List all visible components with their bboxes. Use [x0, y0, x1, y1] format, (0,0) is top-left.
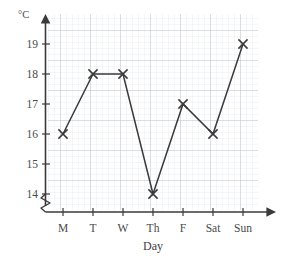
x-tick-label-sat: Sat — [206, 222, 222, 234]
plot-grid — [48, 14, 258, 210]
x-tick-label-sun: Sun — [234, 222, 252, 234]
x-tick-label-f: F — [180, 222, 186, 234]
y-axis-unit-label: °C — [18, 9, 29, 20]
chart-canvas: 19 18 17 16 15 14 °C M T W Th F Sat Sun … — [0, 0, 282, 273]
y-tick-label-16: 16 — [27, 128, 39, 140]
y-tick-label-17: 17 — [27, 98, 39, 110]
y-tick-label-14: 14 — [27, 188, 39, 200]
line-chart: 19 18 17 16 15 14 °C M T W Th F Sat Sun … — [0, 0, 282, 273]
x-axis-title: Day — [143, 239, 163, 253]
x-tick-label-th: Th — [147, 222, 160, 234]
y-tick-label-15: 15 — [27, 158, 39, 170]
y-tick-label-19: 19 — [27, 38, 39, 50]
x-tick-label-t: T — [89, 222, 96, 234]
x-tick-label-w: W — [118, 222, 129, 234]
y-tick-label-18: 18 — [27, 68, 39, 80]
x-tick-label-m: M — [58, 222, 68, 234]
